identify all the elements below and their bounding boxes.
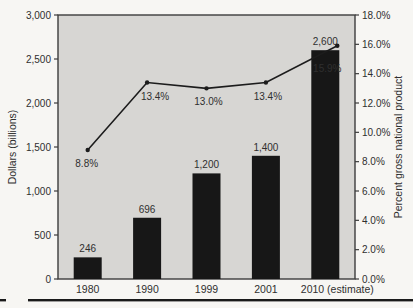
right-axis-tick-label: 14.0% <box>362 68 390 79</box>
right-axis-tick-label: 2.0% <box>362 244 385 255</box>
bar-1980 <box>74 257 102 279</box>
right-axis-title: Percent gross national product <box>392 76 404 218</box>
bottom-rule-left-dash <box>0 299 6 301</box>
left-axis-tick-label: 1,500 <box>26 142 51 153</box>
right-axis-tick-label: 16.0% <box>362 39 390 50</box>
right-axis-tick-label: 18.0% <box>362 10 390 21</box>
bar-2010 <box>311 50 339 279</box>
left-axis-tick-label: 3,000 <box>26 10 51 21</box>
bar-1999 <box>193 173 221 279</box>
line-point <box>145 80 149 84</box>
bar-value-label: 246 <box>79 243 96 254</box>
left-axis-tick-label: 1,000 <box>26 186 51 197</box>
bar-value-label: 2,600 <box>313 36 338 47</box>
bar-line-chart: 05001,0001,5002,0002,5003,0000.0%2.0%4.0… <box>0 0 413 308</box>
left-axis-tick-label: 0 <box>45 274 51 285</box>
bar-value-label: 1,200 <box>194 159 219 170</box>
chart-figure: 05001,0001,5002,0002,5003,0000.0%2.0%4.0… <box>0 0 413 308</box>
bar-value-label: 1,400 <box>253 142 278 153</box>
right-axis-tick-label: 4.0% <box>362 215 385 226</box>
left-axis-tick-label: 500 <box>34 230 51 241</box>
x-axis-label: 2001 <box>254 283 278 295</box>
x-axis-label: 1990 <box>135 283 159 295</box>
x-axis-label: 1999 <box>195 283 219 295</box>
line-point <box>264 80 268 84</box>
left-axis-title: Dollars (billions) <box>6 110 18 185</box>
line-point-label: 15.9% <box>313 63 341 74</box>
line-point <box>204 86 208 90</box>
line-point-label: 13.0% <box>194 96 222 107</box>
line-point-label: 13.4% <box>254 91 282 102</box>
right-axis-tick-label: 8.0% <box>362 156 385 167</box>
right-axis-tick-label: 6.0% <box>362 186 385 197</box>
left-axis-tick-label: 2,000 <box>26 98 51 109</box>
line-point-label: 8.8% <box>75 158 98 169</box>
x-axis-label: 1980 <box>76 283 100 295</box>
left-axis-tick-label: 2,500 <box>26 54 51 65</box>
bar-value-label: 696 <box>139 204 156 215</box>
right-axis-tick-label: 12.0% <box>362 98 390 109</box>
bottom-rule <box>28 299 413 301</box>
line-point <box>335 44 339 48</box>
bar-1990 <box>133 218 161 279</box>
right-axis-tick-label: 10.0% <box>362 127 390 138</box>
line-point-label: 13.4% <box>141 91 169 102</box>
bar-2001 <box>252 156 280 279</box>
x-axis-label: 2010 (estimate) <box>301 283 374 295</box>
line-point <box>86 148 90 152</box>
